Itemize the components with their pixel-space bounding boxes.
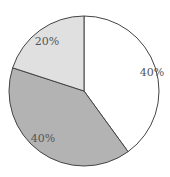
pie-chart: 40%40%20% <box>0 0 170 177</box>
slice-label: 40% <box>140 66 164 79</box>
slice-label: 40% <box>31 132 55 145</box>
slice-label: 20% <box>35 35 59 48</box>
